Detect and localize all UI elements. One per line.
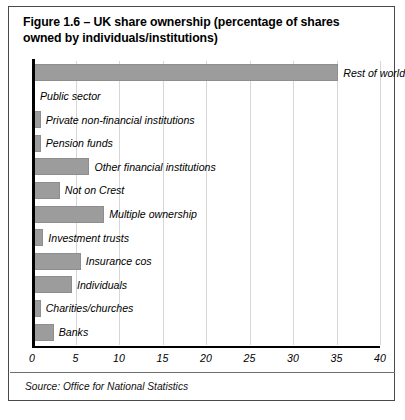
y-axis-line <box>32 59 35 347</box>
x-tick-label: 35 <box>331 351 343 365</box>
bar-label: Insurance cos <box>86 253 152 269</box>
source-note: Source: Office for National Statistics <box>25 381 188 392</box>
bar-row: Private non-financial institutions <box>32 108 380 132</box>
bar-row: Investment trusts <box>32 226 380 250</box>
x-axis-tick-labels: 0510152025303540 <box>32 351 380 369</box>
source-divider <box>10 372 395 373</box>
bar-label: Charities/churches <box>46 300 134 316</box>
bar-row: Banks <box>32 321 380 345</box>
bar-label: Private non-financial institutions <box>46 112 195 128</box>
chart-plot-area: Rest of worldPublic sectorPrivate non-fi… <box>32 61 380 345</box>
bar-label: Rest of world <box>343 65 405 81</box>
bar-label: Individuals <box>77 277 127 293</box>
gridline <box>380 61 381 345</box>
bar-row: Multiple ownership <box>32 203 380 227</box>
x-tick-label: 30 <box>287 351 299 365</box>
figure-container: Figure 1.6 – UK share ownership (percent… <box>8 6 395 401</box>
bar-label: Pension funds <box>46 135 113 151</box>
x-tick-label: 40 <box>374 351 386 365</box>
bar-row: Pension funds <box>32 132 380 156</box>
bar-row: Individuals <box>32 273 380 297</box>
bar-label: Investment trusts <box>48 230 129 246</box>
bar-label: Multiple ownership <box>109 206 197 222</box>
x-axis-line <box>32 346 380 348</box>
bar-row: Rest of world <box>32 61 380 85</box>
bar <box>32 182 60 199</box>
bar-row: Other financial institutions <box>32 155 380 179</box>
figure-title: Figure 1.6 – UK share ownership (percent… <box>23 15 381 46</box>
bar-label: Other financial institutions <box>94 159 215 175</box>
x-tick-label: 0 <box>29 351 35 365</box>
bar-label: Banks <box>59 324 88 340</box>
bar-label: Not on Crest <box>65 182 124 198</box>
bar-row: Charities/churches <box>32 297 380 321</box>
bar <box>32 158 89 175</box>
bar-group: Rest of worldPublic sectorPrivate non-fi… <box>32 61 380 345</box>
bar <box>32 324 54 341</box>
x-tick-label: 20 <box>200 351 212 365</box>
bar-label: Public sector <box>40 88 101 104</box>
x-tick-label: 10 <box>113 351 125 365</box>
bar <box>32 276 72 293</box>
x-tick-label: 25 <box>244 351 256 365</box>
bar <box>32 64 338 81</box>
bar-row: Insurance cos <box>32 250 380 274</box>
x-tick-label: 5 <box>73 351 79 365</box>
bar-row: Not on Crest <box>32 179 380 203</box>
bar <box>32 253 81 270</box>
x-tick-label: 15 <box>157 351 169 365</box>
bar-row: Public sector <box>32 85 380 109</box>
bar <box>32 206 104 223</box>
